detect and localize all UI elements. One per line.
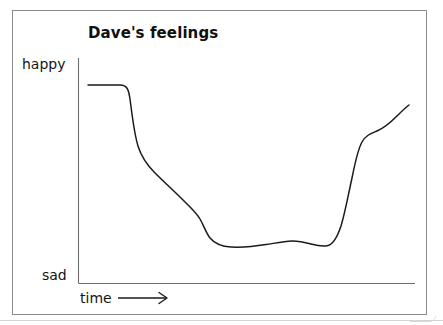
y-axis-label-sad: sad [42,267,67,283]
page-corner-curl [410,316,436,322]
page-separator-rule [0,320,443,321]
clipped-text-remnant [14,0,164,3]
y-axis-label-happy: happy [22,56,66,72]
chart-title: Dave's feelings [88,24,218,42]
figure-frame [12,10,427,315]
x-axis-label-time: time [80,290,112,306]
